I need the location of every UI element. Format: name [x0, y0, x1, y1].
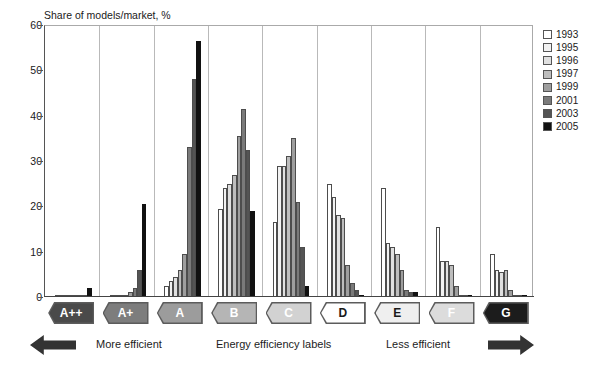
- bar: [142, 204, 147, 297]
- legend-swatch-icon: [543, 96, 552, 105]
- legend-item[interactable]: 1999: [543, 81, 609, 94]
- bar-group: [371, 26, 425, 297]
- y-axis-tick-mark: [38, 161, 43, 162]
- legend-swatch-icon: [543, 56, 552, 65]
- x-axis-badge: A: [157, 302, 203, 324]
- x-axis-badge-label: A: [158, 303, 201, 322]
- bar-group: [45, 26, 99, 297]
- legend-item-label: 1995: [556, 43, 578, 53]
- x-axis-line: [44, 296, 534, 297]
- legend-item-label: 2005: [556, 122, 578, 132]
- legend-item[interactable]: 2005: [543, 120, 609, 133]
- legend-swatch-icon: [543, 83, 552, 92]
- legend-item-label: 2003: [556, 109, 578, 119]
- bar-group: [425, 26, 479, 297]
- x-axis-badge-label: A++: [50, 303, 93, 322]
- x-axis-badge-label: B: [213, 303, 256, 322]
- page-title: Share of models/market, %: [44, 9, 171, 21]
- legend-swatch-icon: [543, 122, 552, 131]
- y-axis-tick-mark: [38, 252, 43, 253]
- legend-swatch-icon: [543, 70, 552, 79]
- y-axis: 0102030405060: [8, 25, 42, 297]
- x-axis-badge: A++: [48, 302, 94, 324]
- chart-figure: Share of models/market, % 0102030405060 …: [0, 0, 614, 373]
- legend-swatch-icon: [543, 43, 552, 52]
- plot-inner: [45, 26, 532, 297]
- bar-group: [99, 26, 153, 297]
- x-axis-label-badges: A++A+ABCDEFG: [44, 302, 533, 326]
- legend-item[interactable]: 1995: [543, 41, 609, 54]
- y-axis-tick-mark: [38, 70, 43, 71]
- y-axis-tick-mark: [38, 297, 43, 298]
- legend: 19931995199619971999200120032005: [543, 28, 609, 134]
- footer-annotations: More efficient Energy efficiency labels …: [0, 332, 614, 372]
- x-axis-badge: B: [211, 302, 257, 324]
- bar-group: [262, 26, 316, 297]
- bar-group: [480, 26, 534, 297]
- legend-item-label: 2001: [556, 96, 578, 106]
- arrow-left-icon: [30, 335, 76, 355]
- bar-group: [317, 26, 371, 297]
- less-efficient-label: Less efficient: [386, 338, 450, 350]
- x-axis-badge: D: [320, 302, 366, 324]
- y-axis-tick-mark: [38, 206, 43, 207]
- x-axis-badge-label: C: [267, 303, 310, 322]
- x-axis-badge: A+: [103, 302, 149, 324]
- x-axis-badge: E: [374, 302, 420, 324]
- legend-item[interactable]: 2001: [543, 94, 609, 107]
- bar: [250, 211, 255, 297]
- x-axis-badge-label: E: [376, 303, 419, 322]
- plot-area: [44, 25, 533, 297]
- legend-swatch-icon: [543, 109, 552, 118]
- x-axis-badge-label: G: [484, 303, 527, 322]
- legend-item-label: 1996: [556, 56, 578, 66]
- legend-item-label: 1999: [556, 82, 578, 92]
- arrow-right-icon: [488, 335, 534, 355]
- y-axis-tick-mark: [38, 25, 43, 26]
- x-axis-badge-label: D: [321, 303, 364, 322]
- x-axis-badge: C: [266, 302, 312, 324]
- y-axis-tick-mark: [38, 116, 43, 117]
- legend-item[interactable]: 1996: [543, 54, 609, 67]
- x-axis-badge: G: [483, 302, 529, 324]
- legend-swatch-icon: [543, 30, 552, 39]
- bar-group: [154, 26, 208, 297]
- legend-item[interactable]: 1993: [543, 28, 609, 41]
- x-axis-badge-label: F: [430, 303, 473, 322]
- x-axis-badge-label: A+: [104, 303, 147, 322]
- legend-item[interactable]: 1997: [543, 68, 609, 81]
- more-efficient-label: More efficient: [96, 338, 162, 350]
- bar-group: [208, 26, 262, 297]
- legend-item-label: 1993: [556, 30, 578, 40]
- legend-item-label: 1997: [556, 69, 578, 79]
- x-axis-badge: F: [429, 302, 475, 324]
- bar: [196, 41, 201, 297]
- axis-caption-label: Energy efficiency labels: [216, 338, 331, 350]
- legend-item[interactable]: 2003: [543, 107, 609, 120]
